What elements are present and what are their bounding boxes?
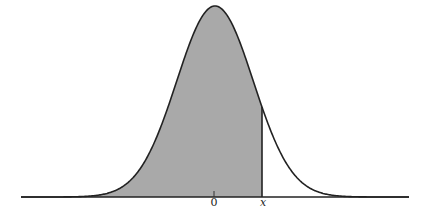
zero-label: 0 [211,196,218,209]
shaded-area [21,6,262,197]
x-label: x [260,196,266,209]
normal-curve-plot [0,0,430,223]
